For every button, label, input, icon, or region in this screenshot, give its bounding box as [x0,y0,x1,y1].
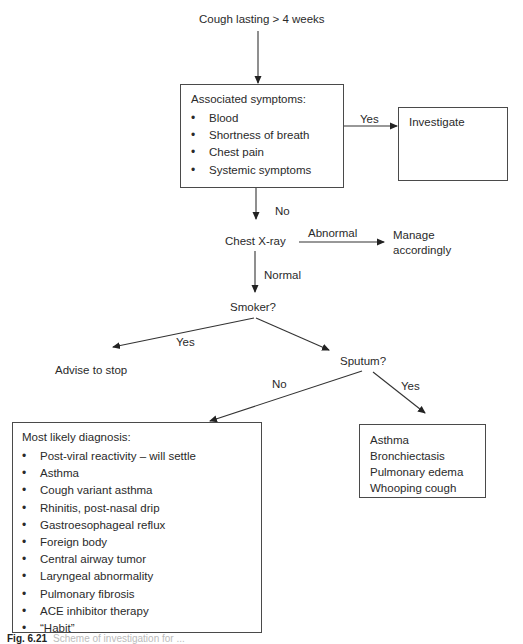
edge-label-normal: Normal [264,270,301,282]
list-item: Cough variant asthma [22,482,261,499]
figure-caption: Fig. 6.21Scheme of investigation for ... [7,633,185,644]
list-item: Whooping cough [370,480,485,496]
list-item: Shortness of breath [191,127,343,144]
list-item: Pulmonary edema [370,464,485,480]
list-item: Chest pain [191,144,343,161]
diagnosis-list: Post-viral reactivity – will settle Asth… [22,448,261,637]
start-node: Cough lasting > 4 weeks [199,14,325,26]
list-item: Asthma [22,465,261,482]
arrow-sputum-yes [373,372,425,413]
chest-xray-node: Chest X-ray [225,236,286,248]
associated-symptoms-list: Blood Shortness of breath Chest pain Sys… [191,110,343,179]
sputum-yes-list: Asthma Bronchiectasis Pulmonary edema Wh… [370,432,485,496]
list-item: Foreign body [22,534,261,551]
edge-label-abnormal: Abnormal [308,228,357,240]
edge-label-no: No [275,206,290,218]
manage-node-line2: accordingly [393,245,451,257]
advise-node: Advise to stop [55,365,127,377]
list-item: Rhinitis, post-nasal drip [22,500,261,517]
list-item: Asthma [370,432,485,448]
list-item: Bronchiectasis [370,448,485,464]
associated-symptoms-heading: Associated symptoms: [191,93,343,105]
caption-label: Fig. 6.21 [7,633,47,644]
list-item: Gastroesophageal reflux [22,517,261,534]
sputum-node: Sputum? [340,356,386,368]
smoker-node: Smoker? [230,302,276,314]
list-item: Pulmonary fibrosis [22,586,261,603]
list-item: Post-viral reactivity – will settle [22,448,261,465]
edge-label-sputum-yes: Yes [401,381,420,393]
edge-label-smoker-yes: Yes [176,337,195,349]
arrow-smoker-no [256,318,329,350]
diagnosis-box: Most likely diagnosis: Post-viral reacti… [12,422,262,633]
list-item: Laryngeal abnormality [22,568,261,585]
associated-symptoms-box: Associated symptoms: Blood Shortness of … [180,84,344,188]
caption-text: Scheme of investigation for ... [53,633,185,644]
list-item: ACE inhibitor therapy [22,603,261,620]
edge-label-yes: Yes [360,114,379,126]
list-item: Systemic symptoms [191,162,343,179]
list-item: Blood [191,110,343,127]
list-item: Central airway tumor [22,551,261,568]
investigate-box: Investigate [398,107,508,181]
sputum-yes-box: Asthma Bronchiectasis Pulmonary edema Wh… [359,424,486,498]
investigate-label: Investigate [409,116,507,128]
flowchart: Cough lasting > 4 weeks Associated sympt… [0,0,523,644]
diagnosis-heading: Most likely diagnosis: [22,431,261,443]
manage-node-line1: Manage [393,230,435,242]
edge-label-sputum-no: No [272,379,287,391]
